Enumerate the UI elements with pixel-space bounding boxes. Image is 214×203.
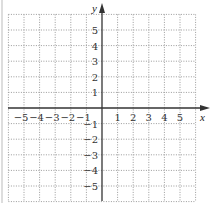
y-tick-label: −2 [83, 134, 98, 145]
x-tick-label: 4 [161, 112, 167, 123]
y-tick-label: 4 [92, 41, 98, 52]
x-axis-label: x [199, 111, 205, 123]
axes: x y [8, 2, 210, 201]
y-tick-label: −4 [83, 165, 98, 176]
x-tick-label: −4 [29, 112, 44, 123]
x-tick-label: −5 [14, 112, 29, 123]
x-tick-label: 2 [130, 112, 136, 123]
coordinate-plane: x y −5−4−3−2−11234554321−1−2−3−4−5 [0, 0, 214, 203]
y-tick-label: −5 [83, 181, 98, 192]
x-tick-label: 3 [146, 112, 152, 123]
y-tick-label: −1 [83, 119, 98, 130]
y-tick-label: 2 [92, 72, 98, 83]
x-tick-label: 1 [114, 112, 120, 123]
y-tick-label: 1 [92, 87, 98, 98]
y-axis-arrow-icon [99, 3, 105, 13]
x-tick-label: 5 [177, 112, 183, 123]
y-tick-label: −3 [83, 150, 98, 161]
x-tick-label: −3 [45, 112, 60, 123]
y-tick-label: 5 [92, 25, 98, 36]
x-tick-label: −2 [60, 112, 75, 123]
y-tick-label: 3 [92, 56, 98, 67]
y-axis-label: y [91, 2, 97, 14]
